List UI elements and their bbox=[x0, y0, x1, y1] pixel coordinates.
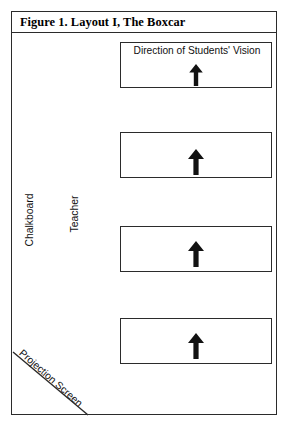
up-arrow-icon bbox=[187, 149, 205, 175]
figure-title-bar: Figure 1. Layout I, The Boxcar bbox=[11, 11, 277, 33]
figure-layout-boxcar: Figure 1. Layout I, The Boxcar Direction… bbox=[0, 0, 286, 433]
chalkboard-label: Chalkboard bbox=[24, 193, 35, 246]
up-arrow-icon bbox=[187, 64, 205, 86]
up-arrow-icon bbox=[187, 240, 205, 268]
student-row-2 bbox=[120, 132, 272, 178]
up-arrow-icon bbox=[187, 332, 205, 360]
vision-direction-label: Direction of Students' Vision bbox=[121, 45, 273, 56]
figure-title: Figure 1. Layout I, The Boxcar bbox=[12, 15, 185, 30]
teacher-label: Teacher bbox=[69, 196, 80, 233]
student-row-1: Direction of Students' Vision bbox=[120, 42, 272, 88]
student-row-3 bbox=[120, 226, 272, 272]
student-row-4 bbox=[120, 318, 272, 364]
